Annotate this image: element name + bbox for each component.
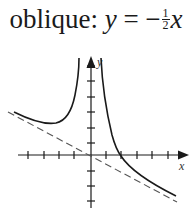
y-axis-arrow-icon: [87, 56, 96, 68]
function-graph: x y: [0, 0, 192, 215]
curve-left-branch: [14, 58, 79, 123]
curve-right-branch: [101, 58, 176, 196]
y-axis: [87, 62, 95, 208]
x-axis: [18, 151, 182, 159]
x-axis-label: x: [178, 159, 185, 173]
